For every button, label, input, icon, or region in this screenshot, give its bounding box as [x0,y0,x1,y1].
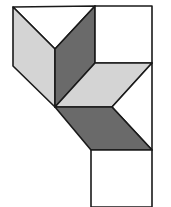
geometric-figure [0,0,171,207]
top-right-square [95,6,152,63]
bottom-square [91,150,152,207]
